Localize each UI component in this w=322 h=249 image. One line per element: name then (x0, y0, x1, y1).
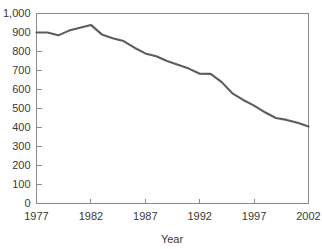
y-tick-label: 100 (12, 178, 30, 190)
y-tick-label: 700 (12, 64, 30, 76)
x-axis-tick-labels: 197719821987199219972002 (24, 210, 320, 222)
x-axis-title: Year (161, 233, 184, 245)
x-axis-tick-marks (91, 199, 254, 204)
y-axis-tick-labels: 01002003004005006007008009001,000 (3, 7, 31, 209)
plot-frame (37, 14, 309, 204)
chart-container: 01002003004005006007008009001,000 197719… (0, 0, 322, 249)
y-tick-label: 500 (12, 102, 30, 114)
y-tick-label: 0 (24, 197, 30, 209)
y-tick-label: 300 (12, 140, 30, 152)
y-axis-tick-marks (37, 33, 42, 185)
y-tick-label: 200 (12, 159, 30, 171)
x-tick-label: 2002 (296, 210, 320, 222)
data-series-line (37, 25, 309, 127)
y-tick-label: 400 (12, 121, 30, 133)
x-tick-label: 1982 (79, 210, 103, 222)
y-tick-label: 600 (12, 83, 30, 95)
x-tick-label: 1977 (24, 210, 48, 222)
y-tick-label: 800 (12, 45, 30, 57)
x-tick-label: 1997 (242, 210, 266, 222)
x-tick-label: 1992 (187, 210, 211, 222)
line-chart: 01002003004005006007008009001,000 197719… (0, 0, 322, 249)
y-tick-label: 900 (12, 26, 30, 38)
x-tick-label: 1987 (133, 210, 157, 222)
y-tick-label: 1,000 (3, 7, 31, 19)
